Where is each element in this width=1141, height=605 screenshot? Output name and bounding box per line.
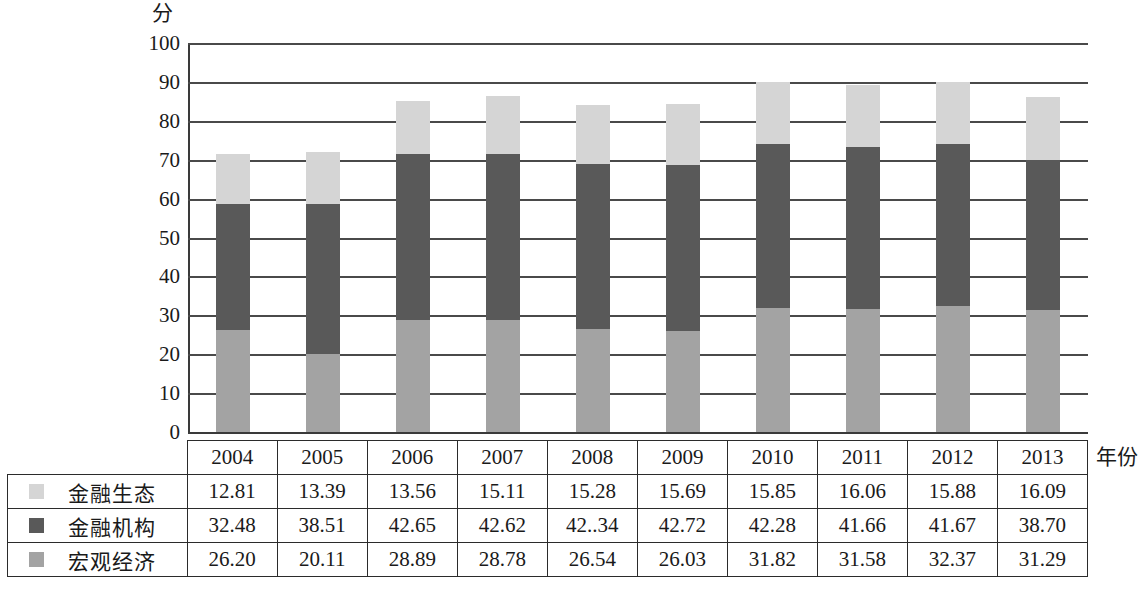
bar-2012 — [936, 43, 970, 432]
y-tick-label-50: 50 — [132, 227, 180, 248]
plot-area — [188, 43, 1088, 432]
table-cell-宏观经济-2012: 32.37 — [907, 543, 997, 577]
y-tick-label-100: 100 — [132, 33, 180, 54]
bar-segment-金融生态-2011 — [846, 85, 880, 147]
legend-label-金融生态: 金融生态 — [68, 477, 156, 507]
legend-label-金融机构: 金融机构 — [68, 511, 156, 541]
gridline-0 — [188, 432, 1088, 434]
bar-segment-金融生态-2006 — [396, 101, 430, 154]
data-table: 2004200520062007200820092010201120122013… — [7, 440, 1088, 577]
table-year-header-2005: 2005 — [277, 441, 367, 475]
bar-segment-金融生态-2007 — [486, 96, 520, 155]
bar-segment-宏观经济-2005 — [306, 354, 340, 432]
table-cell-金融生态-2013: 16.09 — [997, 475, 1087, 509]
bar-segment-金融机构-2004 — [216, 204, 250, 330]
y-tick-label-90: 90 — [132, 71, 180, 92]
bar-segment-金融生态-2008 — [576, 105, 610, 164]
legend-cell-金融生态: 金融生态 — [8, 475, 188, 509]
table-cell-金融机构-2006: 42.65 — [367, 509, 457, 543]
table-cell-金融机构-2005: 38.51 — [277, 509, 367, 543]
table-row: 宏观经济26.2020.1128.8928.7826.5426.0331.823… — [8, 543, 1088, 577]
bar-segment-宏观经济-2004 — [216, 330, 250, 432]
bar-segment-金融机构-2007 — [486, 154, 520, 320]
bar-2011 — [846, 43, 880, 432]
bar-segment-金融机构-2011 — [846, 147, 880, 309]
table-cell-金融机构-2008: 42..34 — [547, 509, 637, 543]
bar-2004 — [216, 43, 250, 432]
legend-swatch-icon-金融生态 — [29, 484, 44, 499]
bar-segment-金融生态-2010 — [756, 82, 790, 144]
legend-label-宏观经济: 宏观经济 — [68, 545, 156, 575]
bar-segment-金融机构-2005 — [306, 204, 340, 354]
table-cell-金融生态-2009: 15.69 — [637, 475, 727, 509]
bar-segment-金融生态-2012 — [936, 82, 970, 144]
table-cell-金融生态-2011: 16.06 — [817, 475, 907, 509]
table-cell-金融机构-2010: 42.28 — [727, 509, 817, 543]
bar-segment-金融生态-2004 — [216, 154, 250, 204]
bar-segment-金融机构-2010 — [756, 144, 790, 308]
table-cell-金融机构-2007: 42.62 — [457, 509, 547, 543]
table-cell-宏观经济-2007: 28.78 — [457, 543, 547, 577]
bar-2010 — [756, 43, 790, 432]
table-cell-宏观经济-2013: 31.29 — [997, 543, 1087, 577]
table-cell-宏观经济-2008: 26.54 — [547, 543, 637, 577]
bar-segment-金融机构-2009 — [666, 165, 700, 331]
table-cell-金融生态-2004: 12.81 — [187, 475, 277, 509]
table-cell-金融生态-2008: 15.28 — [547, 475, 637, 509]
table-year-header-2010: 2010 — [727, 441, 817, 475]
y-axis-unit-label: 分 — [140, 2, 184, 24]
bar-2007 — [486, 43, 520, 432]
table-cell-宏观经济-2006: 28.89 — [367, 543, 457, 577]
bar-segment-金融生态-2005 — [306, 152, 340, 204]
table-row: 金融机构32.4838.5142.6542.6242..3442.7242.28… — [8, 509, 1088, 543]
x-axis-title: 年份 — [1096, 446, 1138, 468]
bar-segment-金融机构-2013 — [1026, 160, 1060, 311]
legend-swatch-icon-金融机构 — [29, 518, 44, 533]
y-tick-label-30: 30 — [132, 305, 180, 326]
table-year-header-2004: 2004 — [187, 441, 277, 475]
table-cell-金融机构-2004: 32.48 — [187, 509, 277, 543]
y-tick-label-70: 70 — [132, 149, 180, 170]
y-tick-label-60: 60 — [132, 188, 180, 209]
bar-segment-金融生态-2013 — [1026, 97, 1060, 160]
bar-2005 — [306, 43, 340, 432]
table-year-header-2009: 2009 — [637, 441, 727, 475]
table-year-header-2007: 2007 — [457, 441, 547, 475]
table-cell-金融生态-2012: 15.88 — [907, 475, 997, 509]
y-tick-label-40: 40 — [132, 266, 180, 287]
bar-segment-金融机构-2006 — [396, 154, 430, 320]
legend-swatch-icon-宏观经济 — [29, 552, 44, 567]
bar-segment-金融机构-2008 — [576, 164, 610, 329]
table-cell-宏观经济-2004: 26.20 — [187, 543, 277, 577]
bar-segment-金融机构-2012 — [936, 144, 970, 306]
bar-segment-宏观经济-2012 — [936, 306, 970, 432]
y-tick-label-10: 10 — [132, 383, 180, 404]
table-header-row: 2004200520062007200820092010201120122013 — [8, 441, 1088, 475]
table-cell-宏观经济-2010: 31.82 — [727, 543, 817, 577]
bar-segment-金融生态-2009 — [666, 104, 700, 165]
stacked-bar-chart-figure: 分 1009080706050403020100 200420052006200… — [0, 0, 1141, 605]
bar-2006 — [396, 43, 430, 432]
table-cell-宏观经济-2009: 26.03 — [637, 543, 727, 577]
table-year-header-2006: 2006 — [367, 441, 457, 475]
table-year-header-2013: 2013 — [997, 441, 1087, 475]
y-tick-label-20: 20 — [132, 344, 180, 365]
table-cell-金融生态-2005: 13.39 — [277, 475, 367, 509]
table-header-corner — [8, 441, 188, 475]
bar-segment-宏观经济-2013 — [1026, 310, 1060, 432]
table-cell-金融生态-2007: 15.11 — [457, 475, 547, 509]
bar-segment-宏观经济-2007 — [486, 320, 520, 432]
bar-segment-宏观经济-2008 — [576, 329, 610, 432]
table-cell-金融生态-2006: 13.56 — [367, 475, 457, 509]
bar-2008 — [576, 43, 610, 432]
bar-2009 — [666, 43, 700, 432]
table-cell-金融生态-2010: 15.85 — [727, 475, 817, 509]
bar-segment-宏观经济-2010 — [756, 308, 790, 432]
table-year-header-2012: 2012 — [907, 441, 997, 475]
table-cell-金融机构-2013: 38.70 — [997, 509, 1087, 543]
legend-cell-金融机构: 金融机构 — [8, 509, 188, 543]
y-tick-label-80: 80 — [132, 110, 180, 131]
table-cell-金融机构-2011: 41.66 — [817, 509, 907, 543]
bar-segment-宏观经济-2006 — [396, 320, 430, 432]
table-year-header-2008: 2008 — [547, 441, 637, 475]
